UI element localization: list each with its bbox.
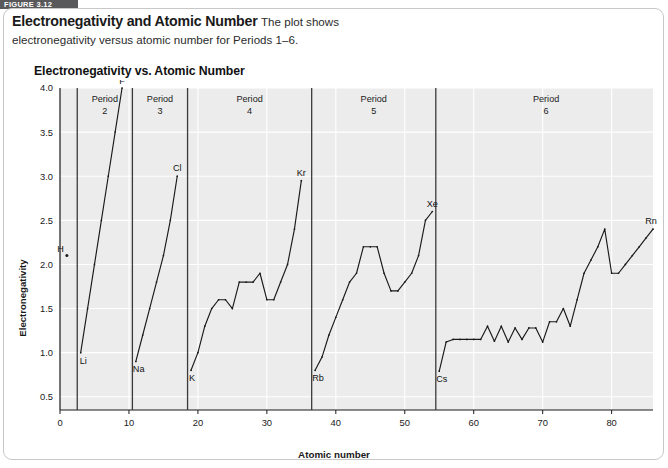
data-point — [459, 339, 461, 341]
data-point — [604, 228, 606, 230]
element-label: H — [57, 244, 64, 254]
data-point — [176, 175, 178, 177]
data-point — [300, 180, 302, 182]
data-point — [225, 299, 227, 301]
x-tick-label: 20 — [193, 417, 203, 428]
y-tick-label: 0.5 — [40, 391, 53, 402]
period-label: Period — [533, 94, 559, 104]
y-tick-label: 2.5 — [40, 215, 53, 226]
data-point — [190, 369, 192, 371]
data-point — [65, 254, 68, 257]
period-label: Period — [92, 94, 118, 104]
period-label-number: 4 — [247, 106, 252, 116]
data-point — [163, 255, 165, 257]
data-point — [335, 317, 337, 319]
x-tick-label: 10 — [124, 417, 134, 428]
data-point — [321, 356, 323, 358]
x-tick-label: 60 — [469, 417, 479, 428]
period-label-number: 3 — [157, 106, 162, 116]
data-point — [80, 352, 82, 354]
data-point — [535, 327, 537, 329]
data-point — [390, 290, 392, 292]
data-point — [445, 341, 447, 343]
period-label: Period — [236, 94, 262, 104]
data-point — [342, 299, 344, 301]
data-point — [638, 246, 640, 248]
data-point — [197, 352, 199, 354]
data-point — [114, 131, 116, 133]
data-point — [87, 308, 89, 310]
data-point — [245, 281, 247, 283]
data-point — [280, 281, 282, 283]
data-point — [363, 246, 365, 248]
figure-caption: Electronegativity and Atomic Number The … — [12, 13, 532, 49]
data-point — [569, 325, 571, 327]
data-point — [294, 228, 296, 230]
data-point — [431, 211, 433, 213]
data-point — [521, 339, 523, 341]
data-point — [273, 299, 275, 301]
data-point — [583, 272, 585, 274]
figure-page: FIGURE 3.12 Electronegativity and Atomic… — [0, 0, 668, 468]
data-point — [142, 334, 144, 336]
data-point — [397, 290, 399, 292]
x-tick-label: 70 — [537, 417, 547, 428]
data-point — [101, 219, 103, 221]
data-point — [383, 272, 385, 274]
data-point — [549, 321, 551, 323]
caption-body-line1: The plot shows — [261, 15, 339, 28]
element-label: Rn — [645, 216, 657, 226]
y-tick-label: 2.0 — [40, 259, 53, 270]
chart-svg: 0.51.01.52.02.53.03.54.00102030405060708… — [0, 80, 668, 440]
data-point — [376, 246, 378, 248]
y-tick-label: 1.0 — [40, 347, 53, 358]
x-axis-title: Atomic number — [0, 449, 668, 460]
data-point — [500, 325, 502, 327]
data-point — [618, 272, 620, 274]
data-point — [218, 299, 220, 301]
data-point — [252, 281, 254, 283]
data-point — [645, 237, 647, 239]
y-tick-label: 4.0 — [40, 82, 53, 93]
period-label-number: 6 — [544, 106, 549, 116]
data-point — [631, 255, 633, 257]
data-point — [480, 339, 482, 341]
caption-body-line2: electronegativity versus atomic number f… — [12, 33, 298, 46]
data-point — [314, 369, 316, 371]
period-label: Period — [147, 94, 173, 104]
data-point — [494, 340, 496, 342]
period-label-number: 2 — [102, 106, 107, 116]
element-label: K — [189, 373, 195, 383]
data-point — [590, 259, 592, 261]
data-point — [466, 339, 468, 341]
element-label: Kr — [297, 168, 306, 178]
y-tick-label: 3.0 — [40, 171, 53, 182]
y-tick-label: 1.5 — [40, 303, 53, 314]
element-label: Na — [133, 364, 146, 374]
data-point — [149, 308, 151, 310]
data-point — [487, 325, 489, 327]
y-tick-label: 3.5 — [40, 127, 53, 138]
data-point — [611, 272, 613, 274]
data-point — [121, 87, 123, 89]
data-point — [542, 341, 544, 343]
data-point — [356, 272, 358, 274]
data-point — [211, 308, 213, 310]
data-point — [107, 175, 109, 177]
data-point — [135, 361, 137, 363]
plot-title: Electronegativity vs. Atomic Number — [34, 64, 245, 78]
caption-title: Electronegativity and Atomic Number — [12, 13, 258, 29]
x-tick-label: 30 — [262, 417, 272, 428]
element-label: Cs — [436, 374, 448, 384]
data-point — [528, 327, 530, 329]
data-point — [404, 281, 406, 283]
data-point — [287, 264, 289, 266]
data-point — [349, 281, 351, 283]
data-point — [156, 281, 158, 283]
x-tick-label: 0 — [57, 417, 62, 428]
data-point — [418, 255, 420, 257]
data-point — [94, 264, 96, 266]
data-point — [514, 327, 516, 329]
x-tick-label: 50 — [400, 417, 410, 428]
data-point — [204, 325, 206, 327]
